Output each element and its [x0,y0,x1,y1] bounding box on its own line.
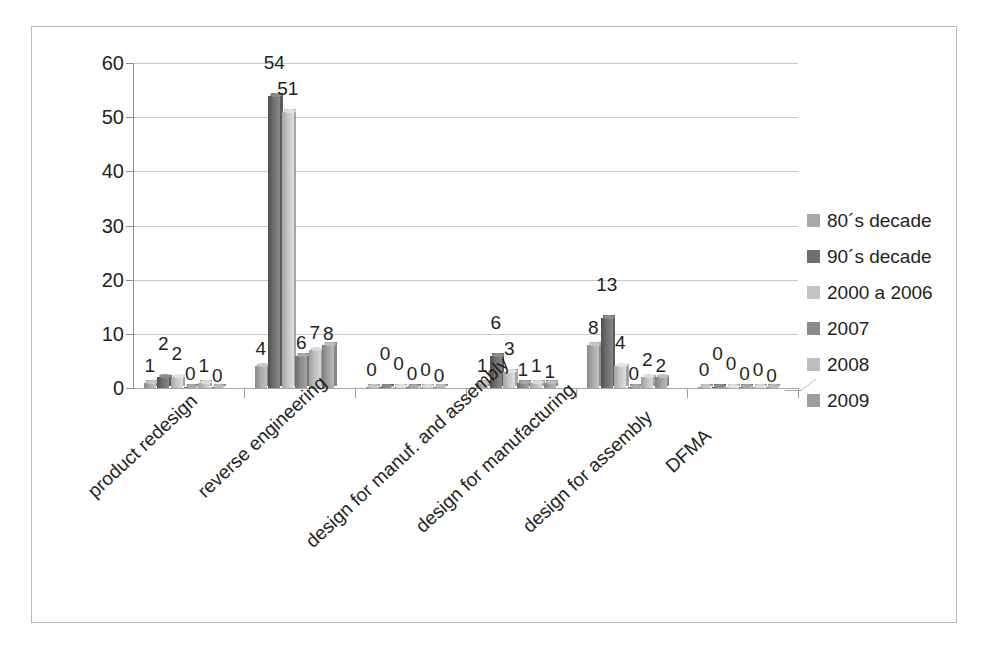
y-axis-tick-label: 60 [102,53,124,73]
bar-front-face [322,345,334,388]
bar-top-cap [478,380,490,384]
bar[interactable] [144,380,156,388]
bar-data-label: 2 [649,356,673,375]
y-axis-tick [126,280,133,281]
legend-item-label: 2008 [827,355,869,374]
chart-frame: 6050403020100 12201045451678000000163111… [31,26,957,623]
bar[interactable] [517,380,529,388]
bar-data-label: 51 [276,79,300,98]
bar-data-label: 0 [205,366,229,385]
y-axis-tick [126,388,133,389]
bar-data-label: 54 [262,53,286,72]
legend-item-label: 2007 [827,319,869,338]
legend-item[interactable]: 2007 [807,310,947,346]
bar-data-label: 1 [538,362,562,381]
bar-data-label: 1 [470,356,494,375]
bar[interactable] [322,342,334,388]
x-axis-label: design for assembly [519,407,656,536]
bar-data-label: 4 [608,333,632,352]
y-axis-tick-label: 40 [102,161,124,181]
bar-data-label: 6 [484,313,508,332]
y-axis-tick [126,117,133,118]
bar-data-label: 4 [249,339,273,358]
x-axis-category-tick [244,388,245,398]
bar[interactable] [255,364,267,388]
legend-item[interactable]: 2000 a 2006 [807,274,947,310]
bar-data-label: 2 [165,344,189,363]
legend-swatch-icon [807,394,820,407]
bar-top-cap [630,384,642,388]
bar[interactable] [295,353,307,388]
y-axis-tick-label: 50 [102,107,124,127]
bar-top-cap [589,342,601,346]
legend: 80´s decade90´s decade2000 a 20062007200… [807,202,947,418]
legend-swatch-icon [807,250,820,263]
bar-front-face [255,366,267,388]
bar-top-cap [368,384,380,388]
legend-item[interactable]: 2009 [807,382,947,418]
x-axis-category-tick [576,388,577,398]
x-axis-label: reverse engineering [194,373,330,501]
y-axis-tick [126,171,133,172]
bar-front-face [157,377,169,388]
bar-top-cap [395,384,407,388]
bar-front-face [309,350,321,388]
bar-data-label: 8 [316,324,340,343]
y-axis-tick-label: 10 [102,324,124,344]
legend-swatch-icon [807,286,820,299]
bar-group [366,63,447,388]
bar-top-cap [284,109,296,113]
bar-data-label: 0 [760,366,784,385]
bar-top-cap [297,353,309,357]
plot-area: 122010454516780000001631118134022000000 [133,63,798,388]
bar-top-cap [408,384,420,388]
bar[interactable] [476,380,488,388]
bar-data-label: 8 [581,318,605,337]
bar-data-label: 0 [427,366,451,385]
bar[interactable] [530,380,542,388]
y-axis-tick-label: 20 [102,270,124,290]
legend-item[interactable]: 80´s decade [807,202,947,238]
x-axis-label: design for manufacturing [412,379,578,536]
x-axis-label: DFMA [662,425,714,476]
bar-top-cap [186,384,198,388]
bar[interactable] [309,348,321,388]
bar-top-cap [146,380,158,384]
legend-item[interactable]: 2008 [807,346,947,382]
bar[interactable] [587,342,599,388]
y-axis-tick [126,63,133,64]
legend-swatch-icon [807,358,820,371]
x-axis-category-tick [687,388,688,398]
legend-item-label: 2009 [827,391,869,410]
y-axis-tick-label: 0 [113,378,124,398]
bar-top-cap [727,384,739,388]
y-axis-line [133,63,134,388]
bar-top-cap [381,384,393,388]
bar-data-label: 1 [138,356,162,375]
legend-item-label: 80´s decade [827,211,932,230]
legend-item[interactable]: 90´s decade [807,238,947,274]
y-axis-tick-labels: 6050403020100 [72,27,124,447]
bar-top-cap [714,384,726,388]
bar-front-face [587,345,599,388]
y-axis-tick [126,226,133,227]
bar-top-cap [519,380,531,384]
x-axis-category-tick [466,388,467,398]
y-axis-tick-label: 30 [102,216,124,236]
bar[interactable] [157,375,169,388]
legend-swatch-icon [807,322,820,335]
bar-group [698,63,779,388]
floor-front-edge [133,388,798,389]
bar-top-cap [700,384,712,388]
legend-swatch-icon [807,214,820,227]
bar-front-face [655,377,667,388]
legend-item-label: 90´s decade [827,247,932,266]
x-axis-category-tick [355,388,356,398]
legend-item-label: 2000 a 2006 [827,283,933,302]
bar-top-cap [741,384,753,388]
bar-data-label: 13 [595,275,619,294]
bar[interactable] [655,375,667,388]
bar-front-face [295,356,307,389]
y-axis-tick [126,334,133,335]
bar-data-label: 3 [497,339,521,358]
